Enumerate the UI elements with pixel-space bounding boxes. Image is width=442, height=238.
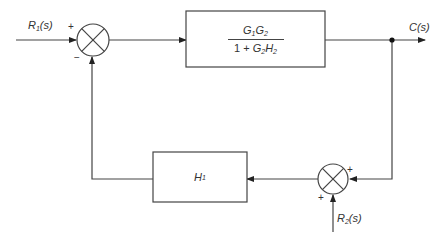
sj1-minus-sign: − — [74, 53, 80, 63]
r1-arg: (s) — [40, 19, 53, 31]
sj2-plus-sign-top: + — [347, 165, 353, 175]
forward-numerator: G1G2 — [239, 24, 272, 39]
feedback-path-left — [92, 57, 153, 179]
sj2-plus-sign-bottom: + — [318, 193, 324, 203]
summing-junction-1 — [77, 24, 109, 56]
feedback-path-right — [350, 40, 392, 179]
r1-base: R — [28, 19, 36, 31]
output-c-label: C(s) — [409, 22, 430, 33]
forward-transfer-label: G1G2 1 + G2H2 — [186, 11, 325, 67]
feedback-h1-label: H1 — [153, 152, 247, 202]
takeoff-point — [389, 37, 394, 42]
input-r2-label: R2(s) — [337, 213, 362, 225]
summing-junction-2 — [318, 164, 348, 194]
input-r1-label: R1(s) — [28, 20, 53, 32]
forward-denominator: 1 + G2H2 — [234, 40, 277, 55]
sj1-plus-sign: + — [68, 22, 74, 32]
